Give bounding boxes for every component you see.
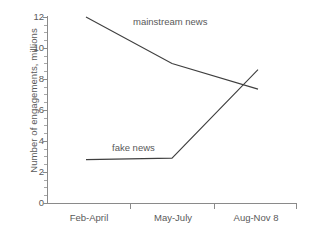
series-label-mainstream-news: mainstream news bbox=[133, 16, 207, 27]
line-chart: Number of engagements, millions 12 10 8 … bbox=[0, 0, 311, 241]
x-tick-label-may-july: May-July bbox=[142, 212, 204, 223]
series-label-fake-news: fake news bbox=[112, 142, 155, 153]
x-tick-label-feb-april: Feb-April bbox=[58, 212, 120, 223]
x-tick-label-aug-nov-8: Aug-Nov 8 bbox=[225, 212, 287, 223]
plot-area bbox=[0, 0, 311, 241]
series-line-mainstream-news bbox=[86, 17, 258, 89]
